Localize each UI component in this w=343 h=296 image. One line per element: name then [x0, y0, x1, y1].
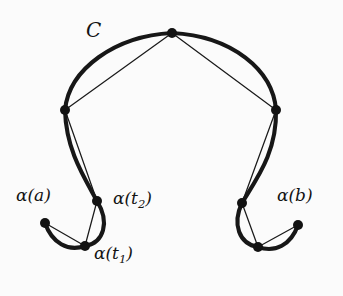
vertex-left-shoulder: [60, 105, 70, 115]
curve-diagram: [0, 0, 343, 296]
chord-t1-to-t2: [85, 201, 97, 246]
vertex-alpha-a: [40, 218, 50, 228]
chord-right-shoulder-to-right-upper: [242, 110, 276, 203]
vertex-apex: [167, 28, 177, 38]
figure-canvas: C α(a) α(t2) α(t1) α(b): [0, 0, 343, 296]
vertex-right-lower: [253, 242, 263, 252]
curve-seg-right-upper-to-right-lower: [237, 203, 258, 247]
curve-seg-t1-to-t2: [85, 201, 104, 246]
label-alpha-a: α(a): [16, 187, 51, 204]
label-alpha-t1: α(t1): [94, 245, 133, 266]
curve-label-c: C: [86, 20, 101, 40]
chord-t2-to-left-shoulder: [65, 110, 97, 201]
label-alpha-t1-close: ): [126, 243, 133, 263]
vertex-right-shoulder: [271, 105, 281, 115]
vertex-alpha-t2: [92, 196, 102, 206]
label-alpha-t2-close: ): [145, 188, 152, 208]
vertex-alpha-b: [293, 220, 303, 230]
vertex-alpha-t1: [80, 241, 90, 251]
label-alpha-b: α(b): [277, 187, 313, 204]
curve-c-path: [45, 33, 298, 249]
label-alpha-t2-base: α(t: [113, 188, 138, 208]
inscribed-polygon-chords: [45, 33, 298, 247]
partition-vertices: [40, 28, 303, 252]
vertex-right-upper: [237, 198, 247, 208]
label-alpha-t2: α(t2): [113, 190, 152, 211]
label-alpha-t1-base: α(t: [94, 243, 119, 263]
